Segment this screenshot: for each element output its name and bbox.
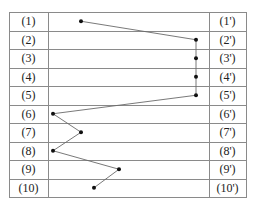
row-label-left: (9) bbox=[9, 160, 48, 179]
data-point bbox=[92, 186, 96, 190]
row-label-left: (5) bbox=[9, 86, 48, 105]
row-label-left: (2) bbox=[9, 31, 48, 50]
row-label-left: (3) bbox=[9, 49, 48, 68]
row-label-left: (8) bbox=[9, 142, 48, 161]
row-label-right: (2') bbox=[209, 31, 246, 50]
data-point bbox=[194, 75, 198, 79]
row-label-right: (5') bbox=[209, 86, 246, 105]
profile-line bbox=[53, 21, 196, 188]
data-point bbox=[79, 19, 83, 23]
data-point bbox=[51, 149, 55, 153]
row-label-left: (10) bbox=[9, 179, 48, 198]
row-label-left: (6) bbox=[9, 105, 48, 124]
row-label-left: (4) bbox=[9, 68, 48, 87]
row-label-left: (7) bbox=[9, 123, 48, 142]
data-point bbox=[194, 56, 198, 60]
data-point bbox=[194, 38, 198, 42]
row-label-right: (6') bbox=[209, 105, 246, 124]
row-label-right: (1') bbox=[209, 12, 246, 31]
row-label-right: (3') bbox=[209, 49, 246, 68]
data-point bbox=[51, 112, 55, 116]
row-label-right: (7') bbox=[209, 123, 246, 142]
data-point bbox=[194, 93, 198, 97]
data-point bbox=[79, 130, 83, 134]
row-label-right: (4') bbox=[209, 68, 246, 87]
row-label-left: (1) bbox=[9, 12, 48, 31]
row-label-right: (10') bbox=[209, 179, 246, 198]
data-point bbox=[117, 167, 121, 171]
row-label-right: (9') bbox=[209, 160, 246, 179]
row-label-right: (8') bbox=[209, 142, 246, 161]
